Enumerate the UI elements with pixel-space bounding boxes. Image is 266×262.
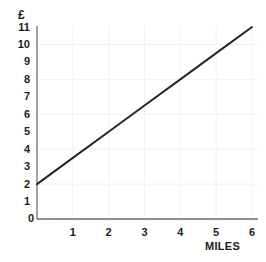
x-tick-label: 6 [243,227,261,238]
y-tick-label: 5 [12,126,30,137]
chart-canvas [0,0,266,262]
x-tick-label: 2 [100,227,118,238]
horizontal-gridlines [37,44,258,219]
y-tick-label: 4 [12,144,30,155]
y-tick-label: 7 [12,91,30,102]
y-tick-label: 2 [12,179,30,190]
x-tick-label: 1 [64,227,82,238]
line-chart: £ MILES 0 1234567891011 123456 [0,0,266,262]
axis-lines [37,26,258,219]
y-tick-label: 11 [12,22,30,33]
vertical-gridlines [73,26,252,219]
x-tick-label: 5 [207,227,225,238]
y-tick-label: 6 [12,109,30,120]
x-tick-label: 4 [171,227,189,238]
y-axis-title: £ [18,9,25,21]
y-tick-label: 1 [12,196,30,207]
y-tick-label: 9 [12,56,30,67]
y-tick-label: 10 [12,39,30,50]
y-tick-label: 8 [12,74,30,85]
origin-tick-label: 0 [20,213,34,224]
y-tick-label: 3 [12,161,30,172]
x-axis-title: MILES [205,241,240,252]
x-tick-label: 3 [136,227,154,238]
